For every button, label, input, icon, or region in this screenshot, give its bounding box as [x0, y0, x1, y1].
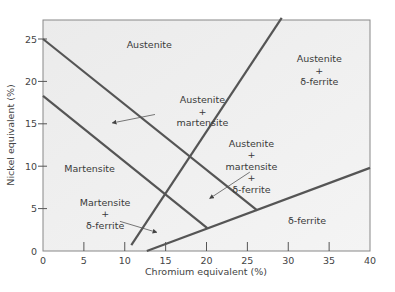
region-label: δ-ferrite [232, 184, 270, 195]
x-tick-label: 40 [364, 255, 376, 266]
region-label: Austenite [180, 94, 225, 105]
y-tick-label: 0 [31, 246, 37, 257]
x-tick-label: 30 [282, 255, 294, 266]
region-label: Martensite [80, 197, 131, 208]
x-tick-label: 15 [160, 255, 172, 266]
y-axis-label: Nickel equivalent (%) [5, 84, 16, 185]
region-label: + [315, 65, 323, 76]
region-label: δ-ferrite [86, 220, 124, 231]
region-label: δ-ferrite [288, 215, 326, 226]
region-label: + [247, 172, 255, 183]
region-label: martensite [226, 161, 278, 172]
region-label: Austenite [297, 53, 342, 64]
region-label: Austenite [229, 138, 274, 149]
region-label: martensite [177, 117, 229, 128]
x-tick-label: 20 [200, 255, 212, 266]
y-tick-label: 5 [31, 203, 37, 214]
schaeffler-diagram: 05101520253035400510152025 AusteniteAust… [0, 0, 395, 292]
region-label: + [247, 149, 255, 160]
y-tick-label: 10 [25, 161, 37, 172]
region-label: + [101, 208, 109, 219]
x-tick-label: 5 [81, 255, 87, 266]
y-tick-label: 15 [25, 118, 37, 129]
x-tick-label: 25 [241, 255, 253, 266]
region-label: + [198, 106, 206, 117]
x-tick-label: 35 [323, 255, 335, 266]
x-tick-label: 10 [119, 255, 131, 266]
region-label: Martensite [64, 163, 115, 174]
y-tick-label: 20 [25, 76, 37, 87]
x-axis-label: Chromium equivalent (%) [145, 266, 267, 277]
region-label: δ-ferrite [300, 76, 338, 87]
region-label: Austenite [127, 39, 172, 50]
y-tick-label: 25 [25, 34, 37, 45]
x-tick-label: 0 [40, 255, 46, 266]
